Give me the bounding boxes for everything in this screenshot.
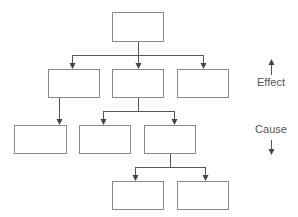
arrow-down-icon bbox=[203, 175, 209, 181]
connector-level2-middle-to-level3 bbox=[101, 98, 178, 125]
effect-up-arrow-icon bbox=[269, 59, 275, 75]
cause-label: Cause bbox=[246, 123, 296, 135]
node-level4-right bbox=[178, 182, 229, 210]
effect-label: Effect bbox=[246, 76, 296, 88]
arrow-down-icon bbox=[136, 63, 142, 69]
arrow-down-icon bbox=[70, 63, 76, 69]
node-level3-left bbox=[15, 126, 67, 154]
node-root bbox=[113, 13, 164, 42]
connector-root-to-level2 bbox=[70, 42, 207, 69]
arrow-down-icon bbox=[201, 63, 207, 69]
node-level3-middle bbox=[80, 126, 131, 154]
arrow-down-icon bbox=[57, 119, 63, 125]
arrow-down-icon bbox=[172, 119, 178, 125]
arrow-down-icon bbox=[133, 175, 139, 181]
node-level2-left bbox=[49, 70, 100, 98]
connector-level3-right-to-level4 bbox=[133, 154, 209, 181]
node-level3-right bbox=[145, 126, 196, 154]
node-level4-left bbox=[113, 182, 164, 210]
arrow-down-icon bbox=[101, 119, 107, 125]
hierarchy-diagram bbox=[0, 0, 298, 217]
node-level2-right bbox=[178, 70, 229, 98]
node-level2-middle bbox=[113, 70, 164, 98]
connector-level2-left-to-level3-left bbox=[57, 98, 63, 125]
cause-down-arrow-icon bbox=[269, 140, 275, 155]
